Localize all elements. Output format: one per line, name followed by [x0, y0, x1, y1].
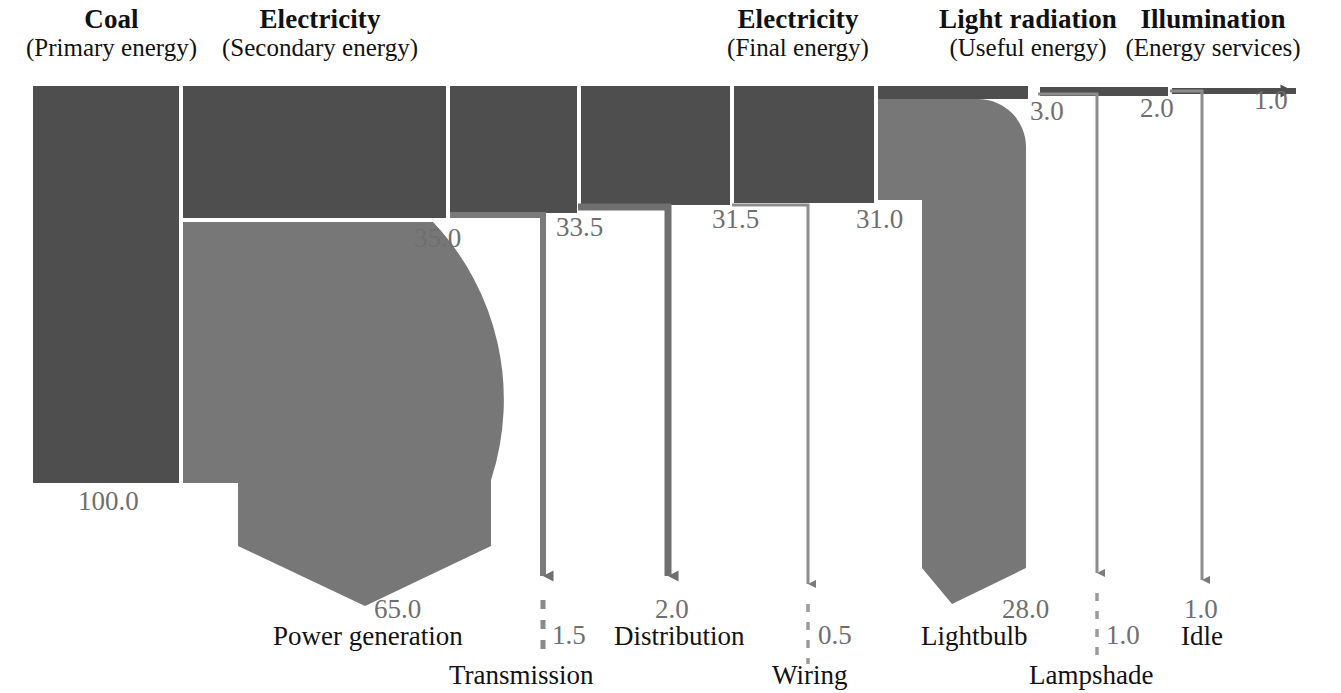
loss-value-transmission: 1.5 — [552, 620, 586, 651]
flow-band-after-transmission — [450, 86, 577, 213]
loss-flow-idle — [1170, 91, 1202, 580]
loss-value-lampshade: 1.0 — [1106, 620, 1140, 651]
flow-band-electricity-secondary — [183, 86, 446, 218]
process-label-idle: Idle — [1181, 621, 1223, 652]
flow-band-light-radiation — [878, 86, 1028, 99]
flow-band-after-distribution — [581, 86, 730, 205]
value-label-after-transmission: 33.5 — [556, 212, 603, 243]
value-label-delivered: 1.0 — [1254, 85, 1288, 116]
process-label-wiring: Wiring — [772, 660, 847, 691]
value-label-coal-in: 100.0 — [78, 486, 139, 517]
value-label-after-lightbulb: 3.0 — [1030, 96, 1064, 127]
sankey-figure: Coal (Primary energy) Electricity (Secon… — [0, 0, 1341, 693]
loss-flow-distribution — [578, 207, 668, 576]
loss-value-wiring: 0.5 — [818, 620, 852, 651]
process-label-lampshade: Lampshade — [1029, 660, 1153, 691]
process-label-power-generation: Power generation — [273, 621, 463, 652]
flow-band-electricity-final — [734, 86, 874, 203]
loss-flow-lightbulb — [878, 99, 1026, 604]
process-label-transmission: Transmission — [449, 660, 594, 691]
process-label-lightbulb: Lightbulb — [921, 621, 1028, 652]
flow-band-coal — [33, 86, 179, 483]
loss-flow-wiring — [732, 205, 808, 584]
value-label-after-wiring: 31.0 — [856, 204, 903, 235]
value-label-after-distribution: 31.5 — [712, 204, 759, 235]
value-label-after-generation: 35.0 — [414, 223, 461, 254]
loss-flow-power-generation — [183, 222, 504, 606]
loss-flow-lampshade — [1038, 94, 1097, 573]
process-label-distribution: Distribution — [614, 621, 745, 652]
value-label-after-lampshade: 2.0 — [1140, 93, 1174, 124]
